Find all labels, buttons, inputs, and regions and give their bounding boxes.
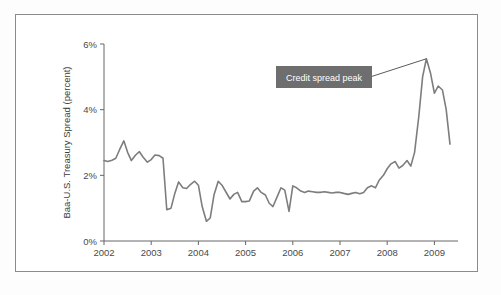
x-axis-tick-label: 2005	[235, 247, 256, 258]
x-axis-tick-label: 2006	[282, 247, 303, 258]
annotation-label: Credit spread peak	[286, 73, 363, 83]
annotation-layer: Credit spread peak	[276, 59, 426, 88]
y-axis-tick-label: 0%	[83, 236, 97, 247]
x-axis-tick-label: 2004	[188, 247, 209, 258]
credit-spread-line-chart: Credit spread peak 0%2%4%6%2002200320042…	[0, 0, 501, 295]
y-axis-tick-label: 4%	[83, 104, 97, 115]
chart-figure: Credit spread peak 0%2%4%6%2002200320042…	[0, 0, 501, 295]
y-axis-tick-label: 6%	[83, 39, 97, 50]
x-axis-tick-label: 2002	[93, 247, 114, 258]
annotation-leader-line	[370, 59, 426, 77]
y-axis-title: Baa-U.S. Treasury Spread (percent)	[61, 66, 72, 218]
x-axis-tick-label: 2009	[424, 247, 445, 258]
x-axis-tick-label: 2003	[141, 247, 162, 258]
x-axis-tick-label: 2008	[377, 247, 398, 258]
x-axis-tick-label: 2007	[329, 247, 350, 258]
y-axis-tick-label: 2%	[83, 170, 97, 181]
